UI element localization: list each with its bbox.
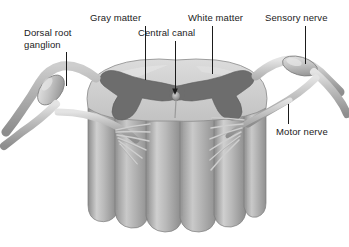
label-gray-matter: Gray matter <box>90 12 141 24</box>
label-motor-nerve: Motor nerve <box>276 126 328 138</box>
label-sensory-nerve: Sensory nerve <box>265 12 328 24</box>
label-central-canal: Central canal <box>138 27 195 39</box>
spinal-cord-figure: Dorsal root ganglion Gray matter Central… <box>0 0 349 247</box>
label-white-matter: White matter <box>188 12 243 24</box>
label-dorsal-root-ganglion: Dorsal root ganglion <box>24 27 72 50</box>
